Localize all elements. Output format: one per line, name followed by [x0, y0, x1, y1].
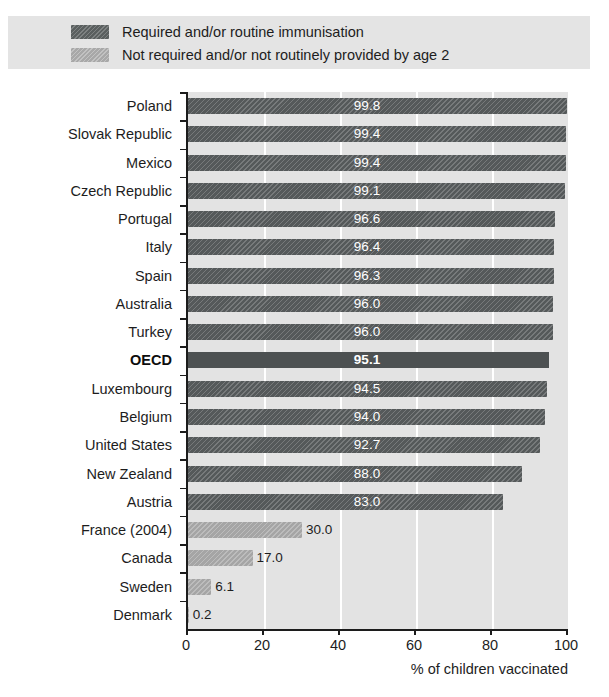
category-label-luxembourg: Luxembourg [0, 382, 172, 397]
y-tick-mark [180, 403, 187, 405]
y-tick-mark [180, 459, 187, 461]
bar-value-label: 0.2 [193, 608, 212, 622]
bar-value-label: 92.7 [354, 439, 380, 453]
bar-value-label: 96.4 [354, 241, 380, 255]
x-tick-label: 100 [554, 637, 578, 653]
y-tick-mark [180, 601, 187, 603]
legend-label-not-required: Not required and/or not routinely provid… [122, 47, 449, 63]
legend-item-required: Required and/or routine immunisation [71, 21, 364, 43]
category-label-slovak-republic: Slovak Republic [0, 127, 172, 142]
y-tick-mark [180, 120, 187, 122]
bar-canada [188, 550, 253, 566]
bar-value-label: 96.0 [354, 325, 380, 339]
y-tick-mark [180, 516, 187, 518]
x-tick-label: 20 [254, 637, 270, 653]
bar-row: Austria83.0 [0, 488, 609, 516]
bar-row: New Zealand88.0 [0, 459, 609, 487]
x-tick-mark [338, 629, 340, 635]
category-label-denmark: Denmark [0, 608, 172, 623]
category-label-czech-republic: Czech Republic [0, 184, 172, 199]
bar-value-label: 6.1 [215, 580, 234, 594]
category-label-portugal: Portugal [0, 212, 172, 227]
bar-row: Canada17.0 [0, 544, 609, 572]
bar-row: Italy96.4 [0, 233, 609, 261]
category-label-new-zealand: New Zealand [0, 466, 172, 481]
bar-value-label: 83.0 [354, 495, 380, 509]
page-title: Figure 1.1. Measles immunisation rates, … [8, 0, 601, 5]
y-tick-mark [180, 149, 187, 151]
category-label-italy: Italy [0, 240, 172, 255]
y-tick-mark [180, 572, 187, 574]
y-tick-mark [180, 544, 187, 546]
legend-label-required: Required and/or routine immunisation [122, 24, 364, 40]
bar-value-label: 30.0 [306, 523, 332, 537]
bar-value-label: 17.0 [257, 552, 283, 566]
legend-item-not-required: Not required and/or not routinely provid… [71, 44, 449, 66]
bar-rows: Poland99.8Slovak Republic99.4Mexico99.4C… [0, 92, 609, 629]
x-tick-mark [262, 629, 264, 635]
bar-value-label: 99.4 [354, 156, 380, 170]
bar-value-label: 96.6 [354, 212, 380, 226]
y-tick-mark [180, 431, 187, 433]
x-tick-mark [490, 629, 492, 635]
dark-hatched-swatch [71, 25, 109, 39]
category-label-austria: Austria [0, 495, 172, 510]
bar-value-label: 88.0 [354, 467, 380, 481]
bar-row: Sweden6.1 [0, 572, 609, 600]
y-tick-mark [180, 262, 187, 264]
y-tick-mark [180, 205, 187, 207]
category-label-mexico: Mexico [0, 155, 172, 170]
bar-value-label: 96.0 [354, 297, 380, 311]
category-label-oecd: OECD [0, 353, 172, 368]
bar-row: Luxembourg94.5 [0, 375, 609, 403]
light-hatched-swatch [71, 48, 109, 62]
category-label-australia: Australia [0, 297, 172, 312]
bar-france-2004 [188, 522, 302, 538]
bar-row: Poland99.8 [0, 92, 609, 120]
y-tick-mark [180, 488, 187, 490]
x-tick-label: 80 [482, 637, 498, 653]
bar-row: United States92.7 [0, 431, 609, 459]
x-tick-mark [566, 629, 568, 635]
x-tick-label: 40 [330, 637, 346, 653]
y-tick-mark [180, 233, 187, 235]
bar-value-label: 99.8 [354, 99, 380, 113]
x-tick-label: 0 [182, 637, 190, 653]
x-tick-mark [186, 629, 188, 635]
category-label-belgium: Belgium [0, 410, 172, 425]
y-tick-mark [180, 290, 187, 292]
bar-row: Czech Republic99.1 [0, 177, 609, 205]
bar-row: OECD95.1 [0, 346, 609, 374]
bar-value-label: 95.1 [354, 354, 380, 368]
category-label-poland: Poland [0, 99, 172, 114]
bar-denmark [188, 607, 189, 623]
category-label-spain: Spain [0, 268, 172, 283]
category-label-turkey: Turkey [0, 325, 172, 340]
y-tick-mark [180, 375, 187, 377]
x-tick-mark [414, 629, 416, 635]
y-tick-mark [180, 92, 187, 94]
x-axis-line [186, 629, 568, 631]
category-label-canada: Canada [0, 551, 172, 566]
x-tick-label: 60 [406, 637, 422, 653]
category-label-france-2004: France (2004) [0, 523, 172, 538]
chart-legend: Required and/or routine immunisation Not… [8, 16, 590, 69]
y-tick-mark [180, 346, 187, 348]
bar-austria [188, 494, 503, 510]
bar-row: Mexico99.4 [0, 149, 609, 177]
x-axis-tick-labels: 020406080100 [0, 637, 609, 659]
bar-value-label: 94.0 [354, 410, 380, 424]
y-tick-mark [180, 318, 187, 320]
bar-row: Spain96.3 [0, 262, 609, 290]
bar-row: Australia96.0 [0, 290, 609, 318]
category-label-sweden: Sweden [0, 579, 172, 594]
bar-sweden [188, 579, 211, 595]
bar-row: Turkey96.0 [0, 318, 609, 346]
bar-value-label: 94.5 [354, 382, 380, 396]
bar-value-label: 96.3 [354, 269, 380, 283]
bar-row: Belgium94.0 [0, 403, 609, 431]
bar-row: Slovak Republic99.4 [0, 120, 609, 148]
category-label-united-states: United States [0, 438, 172, 453]
x-axis-title: % of children vaccinated [411, 661, 568, 677]
bar-value-label: 99.4 [354, 128, 380, 142]
